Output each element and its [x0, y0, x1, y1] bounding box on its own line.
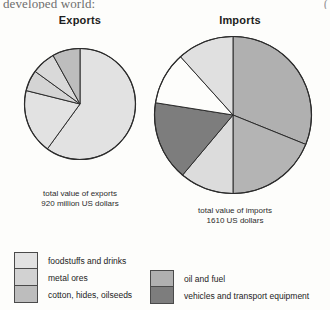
- legend-item-label: metal ores: [48, 273, 88, 283]
- legend-swatch: [14, 269, 38, 286]
- imports-caption: total value of imports 1610 US dollars: [160, 206, 310, 226]
- cut-off-body-text: developed world:: [3, 0, 95, 9]
- imports-pie-chart: [152, 34, 314, 196]
- legend-item[interactable]: foodstuffs and drinks: [14, 252, 132, 269]
- legend-item-label: cotton, hides, oilseeds: [48, 290, 132, 300]
- exports-caption-line2: 920 million US dollars: [10, 199, 150, 209]
- legend-item-label: vehicles and transport equipment: [184, 291, 309, 301]
- legend-swatch: [14, 286, 38, 303]
- exports-pie-svg: [22, 46, 138, 162]
- legend-item-label: foodstuffs and drinks: [48, 256, 126, 266]
- imports-pie-svg: [152, 34, 314, 196]
- cut-off-corner-mark: (: [324, 0, 328, 9]
- legend-swatch: [150, 270, 174, 287]
- exports-pie-chart: [22, 46, 138, 162]
- imports-caption-line1: total value of imports: [198, 206, 272, 215]
- legend-item-label: oil and fuel: [184, 274, 225, 284]
- legend-item[interactable]: vehicles and transport equipment: [150, 287, 309, 304]
- legend-left-column: foodstuffs and drinksmetal orescotton, h…: [14, 252, 132, 303]
- imports-pie-slices: [155, 37, 312, 194]
- imports-chart-title: Imports: [165, 14, 315, 26]
- legend-item[interactable]: oil and fuel: [150, 270, 309, 287]
- exports-caption: total value of exports 920 million US do…: [10, 189, 150, 209]
- exports-chart-title: Exports: [0, 14, 160, 26]
- legend-swatch: [14, 252, 38, 269]
- legend-swatch: [150, 287, 174, 304]
- exports-caption-line1: total value of exports: [43, 189, 117, 198]
- imports-caption-line2: 1610 US dollars: [160, 216, 310, 226]
- figure-canvas: developed world: ( Exports Imports total…: [0, 0, 330, 310]
- legend-item[interactable]: cotton, hides, oilseeds: [14, 286, 132, 303]
- legend-item[interactable]: metal ores: [14, 269, 132, 286]
- legend-right-column: oil and fuelvehicles and transport equip…: [150, 270, 309, 304]
